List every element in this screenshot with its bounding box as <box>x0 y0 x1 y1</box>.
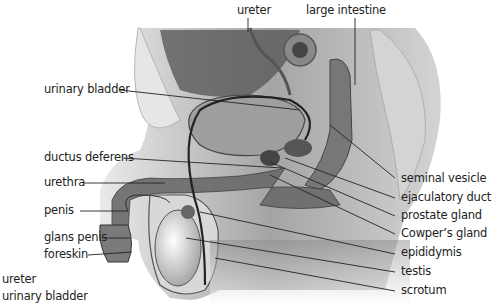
label-penis: penis <box>44 204 74 217</box>
anatomy-diagram: ureter large intestine urinary bladder d… <box>0 0 498 305</box>
label-seminal-vesicle: seminal vesicle <box>401 172 486 185</box>
label-urinary-bladder-stray: urinary bladder <box>2 290 88 303</box>
label-ureter-stray: ureter <box>2 273 36 286</box>
body-section <box>100 28 441 305</box>
label-prostate-gland: prostate gland <box>401 209 482 222</box>
label-ureter: ureter <box>237 4 271 17</box>
label-ejaculatory-duct: ejaculatory duct <box>401 191 491 204</box>
label-urinary-bladder: urinary bladder <box>44 83 130 96</box>
label-cowpers-gland: Cowper’s gland <box>401 227 487 240</box>
label-urethra: urethra <box>44 176 85 189</box>
label-testis: testis <box>401 265 431 278</box>
label-ductus-deferens: ductus deferens <box>44 151 134 164</box>
label-glans-penis: glans penis <box>44 231 107 244</box>
label-epididymis: epididymis <box>401 246 462 259</box>
label-scrotum: scrotum <box>401 284 446 297</box>
label-large-intestine: large intestine <box>306 4 386 17</box>
label-foreskin: foreskin <box>44 248 88 261</box>
